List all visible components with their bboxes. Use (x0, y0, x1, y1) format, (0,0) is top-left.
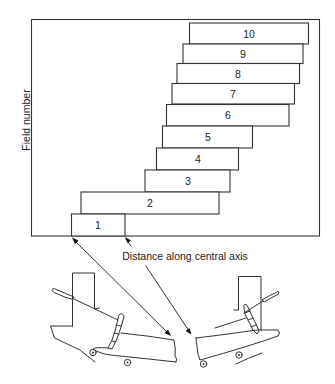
bar-label: 4 (195, 153, 201, 165)
y-axis-label: Field number (20, 89, 32, 151)
applicator-icon (52, 289, 74, 300)
applicator-icon (262, 291, 279, 302)
gantry-base-outline (51, 326, 96, 362)
table-bottom-outline (93, 348, 176, 362)
left-setup-illustration (51, 273, 177, 366)
bar-field-3: 3 (145, 170, 230, 192)
bar-field-1: 1 (72, 214, 126, 236)
bar-label: 1 (95, 219, 101, 231)
bar-field-2: 2 (81, 192, 219, 214)
bar-field-5: 5 (163, 126, 253, 148)
bar-label: 6 (225, 109, 231, 121)
bar-label: 10 (243, 28, 255, 40)
bar-field-4: 4 (157, 148, 239, 170)
bar-label: 2 (147, 197, 153, 209)
table-outline (196, 330, 280, 360)
bar-label: 3 (185, 175, 191, 187)
bar-field-10: 10 (190, 23, 309, 44)
bar-field-6: 6 (167, 105, 290, 127)
arrow-line (146, 266, 189, 331)
arrowhead-icon (125, 237, 131, 243)
bar-label: 5 (205, 131, 211, 143)
x-axis-label: Distance along central axis (122, 250, 247, 262)
arrowhead-icon (186, 328, 192, 335)
bar-field-7: 7 (172, 84, 295, 105)
field-diagram: Field number 10 9 8 7 6 5 4 (0, 0, 335, 384)
bar-label: 9 (240, 48, 246, 60)
table-top-outline (121, 333, 177, 362)
bar-label: 7 (230, 88, 236, 100)
gantry-outline (234, 277, 261, 331)
bar-field-8: 8 (177, 64, 300, 84)
field-bars: 10 9 8 7 6 5 4 3 (72, 23, 309, 236)
bar-field-9: 9 (183, 44, 303, 64)
gantry-outline (73, 273, 100, 326)
bar-label: 8 (235, 68, 241, 80)
right-setup-illustration (196, 277, 280, 368)
